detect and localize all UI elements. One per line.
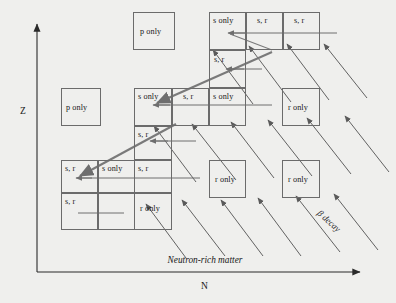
- beta-decay-arrows: [146, 44, 389, 258]
- nuclide-cell-label: r only: [288, 175, 308, 184]
- nuclide-cell-label: s, r: [138, 130, 148, 139]
- axis-label-n: N: [201, 281, 208, 291]
- nuclide-cell[interactable]: [98, 193, 135, 230]
- nuclide-cell-label: s only: [213, 92, 233, 101]
- nuclide-cell-label: r only: [140, 204, 160, 213]
- nuclide-cell-label: s, r: [214, 55, 224, 64]
- axis-label-z: Z: [20, 106, 26, 116]
- nuclide-cell-label: s, r: [183, 92, 193, 101]
- neutron-rich-matter-annotation: Neutron-rich matter: [168, 255, 243, 265]
- nuclide-cell-label: s, r: [138, 164, 148, 173]
- nuclide-cell-label: r only: [215, 175, 235, 184]
- nuclide-cell-label: p only: [140, 27, 161, 36]
- nuclide-cell-label: s, r: [65, 164, 75, 173]
- nuclide-cell-label: s, r: [294, 16, 304, 25]
- nuclide-cell-label: s only: [102, 164, 122, 173]
- nuclide-cell-label: r only: [288, 103, 308, 112]
- nuclide-cell-label: s, r: [65, 197, 75, 206]
- diagram-canvas: p only s only s, r s, r s, r p only s on…: [0, 0, 396, 303]
- nuclide-cell-label: s, r: [257, 16, 267, 25]
- nuclide-cell-label: s only: [213, 16, 233, 25]
- nuclide-cell-label: p only: [66, 103, 87, 112]
- nuclide-cell-label: s only: [138, 92, 158, 101]
